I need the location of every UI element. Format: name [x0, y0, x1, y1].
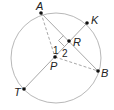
circle-diagram: A K R P B T 1 2	[0, 0, 114, 110]
point-b	[96, 69, 100, 73]
label-p: P	[50, 60, 58, 72]
label-b: B	[101, 67, 108, 79]
point-t	[22, 87, 26, 91]
right-angle-mark	[59, 36, 65, 47]
angle-2-label: 2	[62, 48, 68, 59]
label-a: A	[35, 0, 43, 12]
point-k	[85, 21, 89, 25]
point-r	[67, 39, 71, 43]
angle-1-label: 1	[53, 45, 59, 56]
label-k: K	[91, 14, 99, 26]
label-t: T	[14, 86, 22, 98]
label-r: R	[73, 36, 81, 48]
